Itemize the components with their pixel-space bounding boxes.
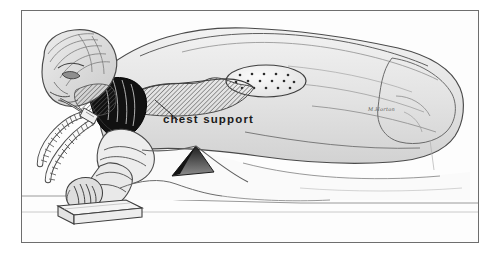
artist-signature: M.Horton [368, 106, 395, 112]
prone-position-drawing [0, 0, 500, 254]
chest-support-label: chest support [163, 113, 254, 125]
illustration-stage: chest support M.Horton [0, 0, 500, 254]
breathing-circuit-tubing [40, 111, 93, 180]
